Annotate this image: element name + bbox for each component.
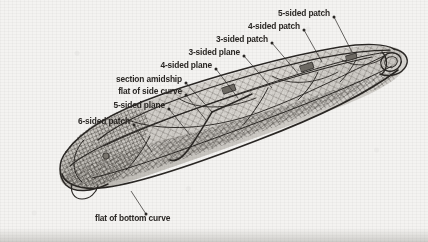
dot-five-sided-patch [333, 16, 336, 19]
hull-patch-figure: 5-sided patch 4-sided patch 3-sided patc… [0, 0, 428, 242]
dot-four-sided-patch [303, 29, 306, 32]
dot-three-sided-plane [243, 55, 246, 58]
dot-five-sided-plane [168, 108, 171, 111]
label-five-sided-patch: 5-sided patch [278, 9, 330, 17]
label-three-sided-patch: 3-sided patch [216, 35, 268, 43]
label-four-sided-patch: 4-sided patch [248, 22, 300, 30]
hull-wireframe-drawing [0, 0, 428, 242]
leader-flat-of-bottom-curve [131, 191, 146, 214]
label-three-sided-plane: 3-sided plane [188, 48, 240, 56]
dot-four-sided-plane [215, 68, 218, 71]
dot-flat-of-side-curve [185, 94, 188, 97]
dot-section-amidship [185, 82, 188, 85]
label-flat-of-bottom-curve: flat of bottom curve [95, 214, 170, 222]
label-flat-of-side-curve: flat of side curve [118, 87, 182, 95]
dot-three-sided-patch [271, 42, 274, 45]
label-six-sided-patch: 6-sided patch [78, 117, 130, 125]
label-four-sided-plane: 4-sided plane [160, 61, 212, 69]
label-five-sided-plane: 5-sided plane [113, 101, 165, 109]
dot-six-sided-patch [133, 124, 136, 127]
stern-patch-marker [103, 153, 109, 159]
label-section-amidship: section amidship [116, 75, 182, 83]
